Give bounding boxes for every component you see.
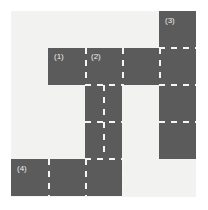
road-cell-r4-c2 — [85, 159, 122, 196]
road-cell-r3-c4 — [159, 122, 196, 159]
intersection-label-2: (2) — [91, 52, 101, 61]
city-block-cell-r2-c0 — [11, 85, 48, 122]
city-block-cell-r4-c4 — [159, 159, 196, 196]
intersection-label-1: (1) — [54, 52, 64, 61]
road-cell-r4-c1 — [48, 159, 85, 196]
city-block-cell-r3-c3 — [122, 122, 159, 159]
road-cell-r1-c4 — [159, 48, 196, 85]
street-grid-diagram: (1)(2)(3)(4) — [0, 0, 208, 210]
road-cell-r2-c2 — [85, 85, 122, 122]
city-block-cell-r0-c1 — [48, 11, 85, 48]
city-block-cell-r3-c0 — [11, 122, 48, 159]
road-cell-r2-c4 — [159, 85, 196, 122]
intersection-label-4: (4) — [17, 164, 27, 173]
intersection-label-3: (3) — [165, 16, 175, 25]
city-block-cell-r0-c2 — [85, 11, 122, 48]
city-block-cell-r1-c0 — [11, 48, 48, 85]
road-cell-r1-c3 — [122, 48, 159, 85]
city-block-cell-r4-c3 — [122, 159, 159, 196]
city-block-cell-r2-c3 — [122, 85, 159, 122]
grid-canvas — [11, 11, 196, 197]
city-block-cell-r3-c1 — [48, 122, 85, 159]
road-cell-r3-c2 — [85, 122, 122, 159]
city-block-cell-r0-c0 — [11, 11, 48, 48]
city-block-cell-r2-c1 — [48, 85, 85, 122]
city-block-cell-r0-c3 — [122, 11, 159, 48]
